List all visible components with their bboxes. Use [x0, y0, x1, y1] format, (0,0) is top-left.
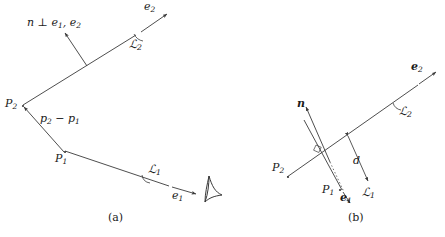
- label-L2-a: ℒ2: [129, 39, 142, 52]
- label-L2-b: ℒ2: [399, 106, 412, 119]
- label-e2-a: e2: [144, 1, 155, 14]
- label-n-b: n: [297, 98, 305, 109]
- label-e1-b: e1: [340, 192, 352, 205]
- panel-b-graphics: [287, 72, 436, 203]
- point-P2-b-dot: [287, 176, 289, 178]
- arrow-normal-b: [306, 107, 330, 162]
- label-L1-b: ℒ1: [362, 187, 375, 200]
- eye-icon: [205, 176, 222, 202]
- panel-a-graphics: [22, 14, 222, 202]
- label-P2-b: P2: [272, 162, 284, 175]
- geometry-figure: n ⊥ e1, e2 e2 ℒ2 P2 p2 − p1 P1 ℒ1 e1 (a)…: [0, 0, 445, 237]
- label-delta-p-a: p2 − p1: [40, 113, 80, 126]
- label-normal-condition-a: n ⊥ e1, e2: [27, 17, 81, 30]
- label-P1-b: P1: [322, 184, 334, 197]
- arrow-e2-a: [141, 14, 167, 32]
- label-distance-d: d: [353, 155, 360, 166]
- arrow-normal-a: [65, 33, 87, 66]
- label-L1-a: ℒ1: [148, 164, 161, 177]
- line-L2-a: [23, 35, 136, 105]
- line-L1-b: [304, 120, 342, 190]
- label-e1-a: e1: [172, 190, 183, 203]
- label-P1-a: P1: [55, 153, 67, 166]
- point-P2-a-dot: [22, 105, 24, 107]
- caption-panel-b: (b): [348, 211, 364, 224]
- caption-panel-a: (a): [108, 211, 123, 224]
- label-e2-b: e2: [411, 61, 423, 74]
- label-P2-a: P2: [5, 98, 17, 111]
